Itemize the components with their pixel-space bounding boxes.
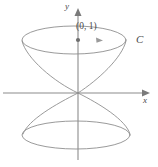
x-axis-label: x	[143, 96, 147, 105]
upper-cone-lobe	[22, 26, 126, 93]
lower-left-side	[23, 93, 78, 134]
upper-right-side	[78, 41, 126, 93]
lower-rim-ellipse	[22, 121, 130, 149]
curve-label: C	[136, 34, 143, 45]
upper-rim-ellipse	[22, 26, 126, 54]
y-axis-label: y	[65, 2, 69, 11]
math-figure: y x (0, 1) C	[0, 0, 158, 167]
x-axis	[3, 90, 150, 97]
marked-point-dot	[76, 38, 80, 42]
orientation-arrow-icon	[96, 37, 103, 42]
upper-left-side	[22, 41, 78, 93]
y-axis-arrowhead	[75, 8, 82, 16]
point-label: (0, 1)	[76, 22, 97, 32]
lower-cone-lobe	[22, 93, 130, 149]
